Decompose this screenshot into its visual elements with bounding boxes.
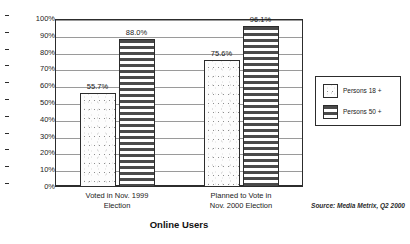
y-axis-tick-label: 0%: [9, 183, 55, 191]
bar-persons-18: [204, 60, 240, 187]
y-axis-tick-label: 80%: [9, 49, 55, 57]
legend-label-persons-18: Persons 18 +: [343, 87, 381, 95]
legend-item-persons-50: Persons 50 +: [323, 105, 381, 119]
y-axis-tick-label: 100%: [9, 15, 55, 23]
y-axis-tick-label: 90%: [9, 32, 55, 40]
y-axis-tick-mark: [5, 32, 9, 33]
bar-persons-50: [243, 26, 279, 187]
x-axis-category-label: Voted in Nov. 1999Election: [55, 191, 179, 211]
legend: Persons 18 + Persons 50 +: [315, 76, 401, 126]
x-axis-category-line: Election: [55, 201, 179, 211]
bars-layer: 55.7%88.0%75.6%96.1%: [55, 19, 303, 187]
bar-value-label: 75.6%: [204, 50, 240, 58]
legend-swatch-speckle-icon: [323, 84, 338, 98]
y-axis-tick-mark: [5, 99, 9, 100]
y-axis: 100%90%80%70%60%50%40%30%20%10%0%: [0, 19, 55, 187]
legend-label-persons-50: Persons 50 +: [343, 108, 381, 116]
x-axis-category-line: Planned to Vote in: [179, 191, 303, 201]
legend-item-persons-18: Persons 18 +: [323, 84, 381, 98]
x-axis-category-label: Planned to Vote inNov. 2000 Election: [179, 191, 303, 211]
y-axis-tick-label: 30%: [9, 133, 55, 141]
bar-persons-18: [80, 93, 116, 187]
y-axis-tick-mark: [5, 49, 9, 50]
x-axis-category-line: Nov. 2000 Election: [179, 201, 303, 211]
y-axis-tick-mark: [5, 82, 9, 83]
y-axis-tick-mark: [5, 183, 9, 184]
y-axis-tick-label: 40%: [9, 116, 55, 124]
y-axis-tick-label: 50%: [9, 99, 55, 107]
bar-value-label: 96.1%: [243, 16, 279, 24]
bar-value-label: 88.0%: [119, 29, 155, 37]
bar-persons-50: [119, 39, 155, 187]
chart-title: Online Users: [55, 219, 303, 231]
y-axis-tick-label: 70%: [9, 65, 55, 73]
y-axis-tick-mark: [5, 166, 9, 167]
y-axis-tick-label: 10%: [9, 166, 55, 174]
y-axis-tick-mark: [5, 149, 9, 150]
x-axis-category-line: Voted in Nov. 1999: [55, 191, 179, 201]
y-axis-tick-label: 60%: [9, 82, 55, 90]
y-axis-tick-mark: [5, 65, 9, 66]
bar-value-label: 55.7%: [80, 83, 116, 91]
y-axis-tick-mark: [5, 116, 9, 117]
legend-swatch-stripes-icon: [323, 105, 338, 119]
y-axis-tick-label: 20%: [9, 149, 55, 157]
y-axis-tick-mark: [5, 133, 9, 134]
chart-container: 100%90%80%70%60%50%40%30%20%10%0% 55.7%8…: [0, 0, 410, 244]
y-axis-tick-mark: [5, 15, 9, 16]
